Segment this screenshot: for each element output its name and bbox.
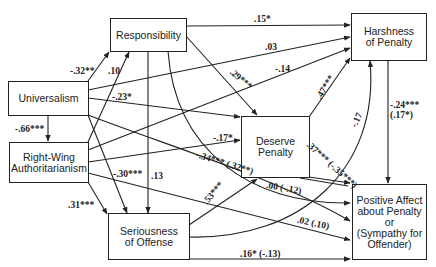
coef-rwa-deserve: -.17* <box>213 133 233 143</box>
coef-universalism-responsibility: -.32** <box>70 66 95 76</box>
node-label: Positive Affect about Penalty or (Sympat… <box>357 195 423 250</box>
coef-rwa-seriousness: .31*** <box>68 200 94 210</box>
coef-universalism-seriousness: -.30*** <box>113 169 142 179</box>
node-label: Universalism <box>18 93 78 104</box>
node-label: Seriousness of Offense <box>120 226 178 248</box>
coef-responsibility-seriousness: .13 <box>151 171 163 181</box>
coef-universalism-rwa: -.66*** <box>15 124 44 134</box>
coef-universalism-deserve: -.23* <box>112 92 132 102</box>
coef-universalism-harshness: .03 <box>265 42 277 52</box>
node-harshness-of-penalty: Harshness of Penalty <box>351 13 427 61</box>
coef-rwa-harshness: -.14 <box>275 64 290 74</box>
node-universalism: Universalism <box>8 81 89 116</box>
coef-harshness-positive-affect-1: -.24*** <box>390 100 419 110</box>
coef-seriousness-positive-affect: .16* (-.13) <box>240 249 280 259</box>
coef-rwa-responsibility: .10 <box>108 66 120 76</box>
node-label: Right-Wing Authoritarianism <box>11 152 87 174</box>
node-positive-affect: Positive Affect about Penalty or (Sympat… <box>352 184 427 260</box>
path-diagram: Responsibility Harshness of Penalty Univ… <box>0 0 436 267</box>
node-label: Harshness of Penalty <box>364 26 414 48</box>
coef-harshness-positive-affect-2: (.17*) <box>390 110 413 120</box>
node-label: Responsibility <box>116 30 181 41</box>
coef-responsibility-harshness: .15* <box>254 14 271 24</box>
node-responsibility: Responsibility <box>110 18 187 52</box>
node-seriousness-of-offense: Seriousness of Offense <box>108 213 190 260</box>
node-label: Deserve Penalty <box>256 136 295 158</box>
node-right-wing-authoritarianism: Right-Wing Authoritarianism <box>9 142 89 183</box>
